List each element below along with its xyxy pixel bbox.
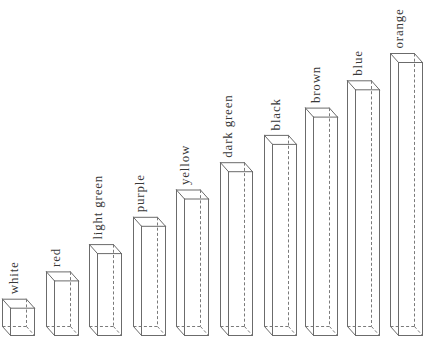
- top-right-depth-edge: [158, 217, 166, 226]
- hidden-bottom-right-depth-edge: [245, 327, 253, 336]
- rod-blue: blue: [348, 50, 380, 335]
- rod-light-green: light green: [90, 175, 122, 336]
- top-left-depth-edge: [348, 81, 356, 90]
- bottom-left-depth-edge: [177, 327, 185, 336]
- top-left-depth-edge: [47, 272, 55, 281]
- bottom-left-depth-edge: [391, 327, 399, 336]
- top-left-depth-edge: [3, 299, 11, 308]
- top-left-depth-edge: [134, 217, 142, 226]
- top-left-depth-edge: [177, 190, 185, 199]
- top-right-depth-edge: [415, 54, 423, 63]
- top-right-depth-edge: [372, 81, 380, 90]
- rod-white: white: [3, 261, 35, 335]
- bottom-left-depth-edge: [306, 327, 314, 336]
- top-right-depth-edge: [330, 108, 338, 117]
- rod-dark-green: dark green: [220, 94, 253, 335]
- rod-label-orange: orange: [391, 8, 406, 48]
- rod-yellow: yellow: [177, 145, 209, 336]
- hidden-bottom-right-depth-edge: [289, 327, 297, 336]
- rod-label-yellow: yellow: [177, 145, 192, 185]
- top-left-depth-edge: [221, 163, 229, 172]
- rod-label-light-green: light green: [91, 175, 106, 240]
- top-right-depth-edge: [245, 163, 253, 172]
- rod-label-purple: purple: [132, 174, 147, 212]
- bottom-left-depth-edge: [90, 327, 98, 336]
- hidden-bottom-right-depth-edge: [114, 327, 122, 336]
- hidden-bottom-right-depth-edge: [330, 327, 338, 336]
- top-left-depth-edge: [306, 108, 314, 117]
- rod-red: red: [47, 248, 79, 336]
- rods-canvas: whiteredlight greenpurpleyellowdark gree…: [0, 0, 428, 346]
- bottom-left-depth-edge: [221, 327, 229, 336]
- bottom-left-depth-edge: [47, 327, 55, 336]
- bottom-left-depth-edge: [134, 327, 142, 336]
- hidden-bottom-right-depth-edge: [201, 327, 209, 336]
- rod-black: black: [265, 98, 297, 335]
- rod-label-black: black: [268, 98, 283, 130]
- bottom-left-depth-edge: [348, 327, 356, 336]
- rod-purple: purple: [132, 174, 166, 335]
- top-right-depth-edge: [289, 135, 297, 144]
- top-left-depth-edge: [391, 54, 399, 63]
- rod-label-red: red: [48, 248, 63, 267]
- hidden-bottom-right-depth-edge: [71, 327, 79, 336]
- rod-label-white: white: [6, 261, 21, 294]
- top-right-depth-edge: [201, 190, 209, 199]
- top-right-depth-edge: [27, 299, 35, 308]
- bottom-left-depth-edge: [3, 327, 11, 336]
- top-left-depth-edge: [265, 135, 273, 144]
- top-right-depth-edge: [71, 272, 79, 281]
- hidden-bottom-right-depth-edge: [372, 327, 380, 336]
- rod-label-dark-green: dark green: [220, 94, 235, 157]
- top-left-depth-edge: [90, 245, 98, 254]
- bottom-left-depth-edge: [265, 327, 273, 336]
- hidden-bottom-right-depth-edge: [158, 327, 166, 336]
- hidden-bottom-right-depth-edge: [415, 327, 423, 336]
- rods-diagram: whiteredlight greenpurpleyellowdark gree…: [0, 0, 428, 346]
- rod-label-brown: brown: [308, 66, 323, 103]
- hidden-bottom-right-depth-edge: [27, 327, 35, 336]
- rod-orange: orange: [391, 8, 423, 335]
- rod-label-blue: blue: [350, 50, 365, 76]
- top-right-depth-edge: [114, 245, 122, 254]
- rod-brown: brown: [306, 66, 338, 336]
